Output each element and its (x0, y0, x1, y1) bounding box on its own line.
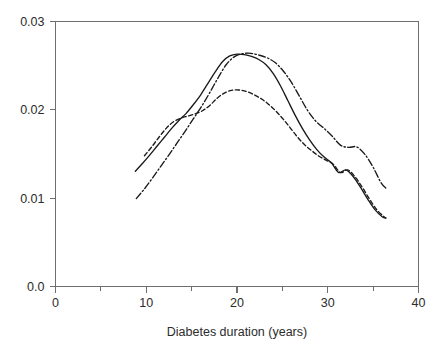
x-tick-label-3: 30 (321, 296, 335, 310)
x-tick-label-2: 20 (230, 296, 244, 310)
axes-group (50, 22, 419, 293)
axis-labels-group: 0.00.010.020.03010203040Diabetes duratio… (20, 15, 425, 339)
x-tick-label-4: 40 (412, 296, 426, 310)
x-tick-label-1: 10 (139, 296, 153, 310)
series-group (135, 53, 386, 218)
y-tick-label-1: 0.01 (20, 192, 44, 206)
series-line-solid (135, 54, 385, 218)
figure-container: 0.00.010.020.03010203040Diabetes duratio… (0, 0, 444, 348)
line-chart: 0.00.010.020.03010203040Diabetes duratio… (0, 0, 444, 348)
y-tick-label-3: 0.03 (20, 15, 44, 29)
x-tick-label-0: 0 (52, 296, 59, 310)
y-tick-label-2: 0.02 (20, 103, 44, 117)
x-axis-title: Diabetes duration (years) (167, 325, 307, 339)
series-line-dashed (144, 90, 385, 218)
y-tick-label-0: 0.0 (27, 280, 44, 294)
